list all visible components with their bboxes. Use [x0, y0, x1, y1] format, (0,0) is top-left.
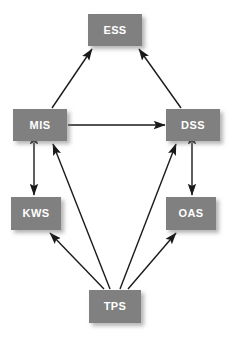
edge-dss-ess: [139, 49, 181, 108]
edge-layer: [0, 0, 233, 340]
node-dss-label: DSS: [181, 120, 205, 131]
node-mis[interactable]: MIS: [13, 109, 67, 141]
edge-mis-ess: [52, 49, 92, 108]
node-kws[interactable]: KWS: [11, 197, 61, 230]
node-dss[interactable]: DSS: [166, 109, 220, 141]
node-ess[interactable]: ESS: [88, 14, 142, 46]
node-tps-label: TPS: [104, 301, 127, 312]
edge-tps-oas: [128, 233, 176, 289]
node-kws-label: KWS: [23, 208, 50, 219]
systems-interrelationship-diagram: ESS MIS DSS KWS OAS TPS: [0, 0, 233, 340]
node-oas-label: OAS: [178, 208, 203, 219]
node-mis-label: MIS: [30, 120, 51, 131]
node-ess-label: ESS: [103, 25, 126, 36]
edges-group: [34, 49, 192, 289]
edge-tps-kws: [50, 233, 104, 289]
edge-tps-mis: [53, 144, 110, 289]
node-tps[interactable]: TPS: [89, 290, 141, 323]
node-oas[interactable]: OAS: [166, 197, 216, 230]
